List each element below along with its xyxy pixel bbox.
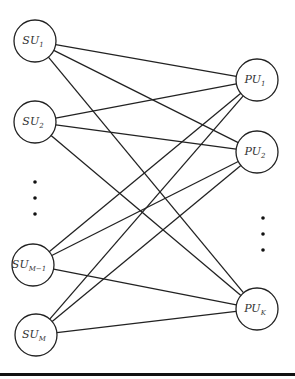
bipartite-graph-diagram: SU1SU2SUM−1SUMPU1PU2PUK <box>0 0 295 379</box>
right-ellipsis-dot <box>261 216 265 220</box>
left-ellipsis-dot <box>33 180 37 184</box>
bottom-rule <box>0 373 295 376</box>
edge-suM-pu2 <box>52 165 241 321</box>
edge-su2-pu1 <box>56 84 237 118</box>
edge-su1-pu1 <box>56 45 237 77</box>
left-ellipsis-dot <box>33 196 37 200</box>
edge-suM1-pu1 <box>49 93 241 251</box>
node-suM: SUM <box>15 314 57 356</box>
left-ellipsis-dot <box>33 212 37 216</box>
edge-suM1-puK <box>54 269 237 305</box>
edge-suM-pu1 <box>50 96 243 319</box>
right-ellipsis-dot <box>261 248 265 252</box>
right-ellipsis-dot <box>261 232 265 236</box>
edge-su2-puK <box>51 136 241 296</box>
edge-su1-puK <box>48 57 243 293</box>
node-pu2: PU2 <box>236 131 278 173</box>
nodes: SU1SU2SUM−1SUMPU1PU2PUK <box>12 20 278 356</box>
node-suM1: SUM−1 <box>12 244 54 286</box>
node-pu1: PU1 <box>236 59 278 101</box>
edges <box>48 45 243 333</box>
edge-suM-puK <box>57 311 236 332</box>
node-su2: SU2 <box>14 101 56 143</box>
node-puK: PUK <box>236 288 278 330</box>
node-su1: SU1 <box>14 20 56 62</box>
